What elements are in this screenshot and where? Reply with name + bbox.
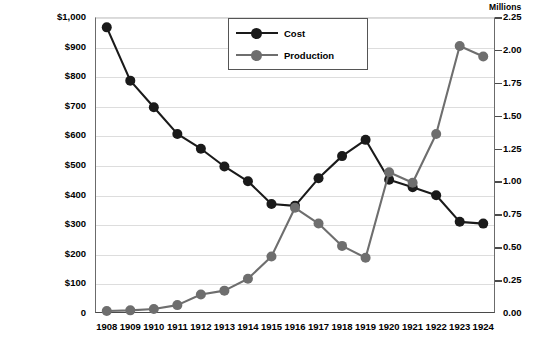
data-point <box>431 129 441 139</box>
series-line-production <box>107 46 483 311</box>
data-point <box>314 219 324 229</box>
data-point <box>243 176 253 186</box>
data-point <box>219 286 229 296</box>
left-axis-tick-600: $600 <box>65 130 86 140</box>
right-axis-tick-050: 0.50 <box>503 242 522 252</box>
legend-label-cost: Cost <box>284 28 305 39</box>
data-point <box>172 300 182 310</box>
data-point <box>314 173 324 183</box>
right-axis-tick-mark <box>495 17 502 19</box>
left-axis-tick-100: $100 <box>65 278 86 288</box>
left-axis-tick-400: $400 <box>65 190 86 200</box>
legend-item-cost[interactable]: Cost <box>236 26 364 40</box>
legend-label-production: Production <box>284 50 334 61</box>
right-axis-tick-mark <box>495 50 502 52</box>
right-axis-tick-025: 0.25 <box>503 275 522 285</box>
right-axis-tick-225: 2.25 <box>503 12 522 22</box>
right-axis-tick-mark <box>495 116 502 118</box>
data-point <box>149 304 159 314</box>
right-axis-tick-125: 1.25 <box>503 144 522 154</box>
left-axis-tick-500: $500 <box>65 160 86 170</box>
left-axis-tick-300: $300 <box>65 219 86 229</box>
left-axis-tick-900: $900 <box>65 42 86 52</box>
right-axis-tick-mark <box>495 149 502 151</box>
data-point <box>455 41 465 51</box>
left-axis-tick-1000: $1,000 <box>57 12 86 22</box>
data-point <box>149 102 159 112</box>
right-axis-tick-075: 0.75 <box>503 209 522 219</box>
data-point <box>266 251 276 261</box>
data-point <box>219 161 229 171</box>
right-axis-tick-mark <box>495 181 502 183</box>
legend-marker-cost-icon <box>236 27 278 39</box>
right-axis-tick-mark <box>495 247 502 249</box>
legend-marker-production-icon <box>236 49 278 61</box>
data-point <box>408 178 418 188</box>
data-point <box>290 203 300 213</box>
left-axis-tick-700: $700 <box>65 101 86 111</box>
data-point <box>243 274 253 284</box>
data-point <box>337 241 347 251</box>
right-axis-tick-mark <box>495 214 502 216</box>
data-point <box>384 167 394 177</box>
data-point <box>478 219 488 229</box>
data-point <box>125 305 135 315</box>
data-point <box>266 199 276 209</box>
legend-item-production[interactable]: Production <box>236 48 364 62</box>
left-axis-tick-200: $200 <box>65 249 86 259</box>
data-point <box>196 290 206 300</box>
chart-container: Millions 0$100$200$300$400$500$600$700$8… <box>0 0 545 342</box>
data-point <box>125 76 135 86</box>
data-point <box>455 217 465 227</box>
data-point <box>361 253 371 263</box>
right-axis-tick-100: 1.00 <box>503 176 522 186</box>
data-point <box>102 306 112 316</box>
data-point <box>361 135 371 145</box>
data-point <box>172 129 182 139</box>
x-axis-tick-1924: 1924 <box>465 322 501 332</box>
right-axis-tick-mark <box>495 83 502 85</box>
chart-legend: Cost Production <box>228 18 368 70</box>
data-point <box>196 144 206 154</box>
data-point <box>431 190 441 200</box>
data-point <box>478 51 488 61</box>
left-axis-tick-800: $800 <box>65 71 86 81</box>
right-axis-tick-200: 2.00 <box>503 45 522 55</box>
right-axis-tick-150: 1.50 <box>503 111 522 121</box>
left-axis-tick-0: 0 <box>81 308 86 318</box>
data-point <box>337 151 347 161</box>
right-axis-tick-mark <box>495 280 502 282</box>
right-axis-tick-000: 0.00 <box>503 308 522 318</box>
series-production <box>102 41 488 316</box>
data-point <box>102 22 112 32</box>
right-axis-tick-175: 1.75 <box>503 78 522 88</box>
